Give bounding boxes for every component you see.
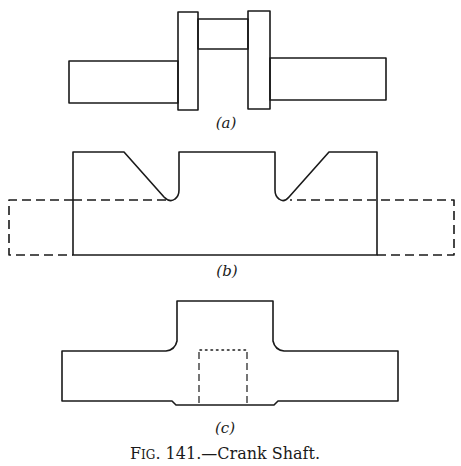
forging-outline: [73, 152, 377, 255]
caption-prefix-smallcaps: IG: [141, 448, 155, 462]
caption-prefix-initial: F: [130, 444, 141, 463]
caption-title: —Crank Shaft.: [201, 444, 320, 463]
rough-stock-dashed: [9, 200, 454, 255]
hidden-bore-dashed: [199, 352, 247, 404]
figure-caption: FIG. 141.—Crank Shaft.: [130, 444, 320, 463]
left-crank-web: [178, 12, 198, 110]
crank-shaft-drawing: [0, 0, 461, 466]
subfigure-a-label: (a): [216, 114, 237, 132]
right-crank-web: [248, 11, 270, 109]
subfigure-a-drawing: [69, 11, 386, 110]
subfigure-c-label: (c): [215, 419, 235, 437]
right-shaft: [270, 58, 386, 100]
shaft-with-boss-outline: [62, 301, 398, 405]
subfigure-b-drawing: [9, 152, 454, 255]
crankpin: [198, 19, 248, 49]
subfigure-b-label: (b): [216, 262, 237, 280]
caption-number: . 141.: [155, 444, 201, 463]
left-shaft: [69, 61, 178, 103]
subfigure-c-drawing: [62, 301, 398, 405]
